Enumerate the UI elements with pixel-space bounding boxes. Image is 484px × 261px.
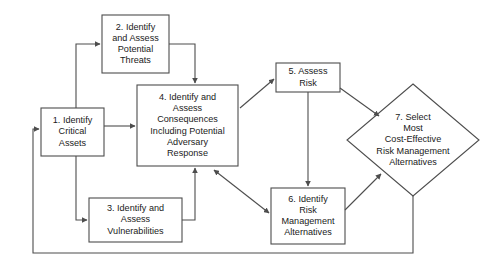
node-label-assess-risk: 5. Assess Risk — [276, 63, 340, 92]
node-label-identify-assess-vulnerabilities: 3. Identify and Assess Vulnerabilities — [89, 198, 182, 242]
node-label-identify-risk-management-alternatives: 6. Identify Risk Management Alternatives — [271, 188, 345, 244]
edge-3-to-4 — [182, 168, 195, 220]
edge-4-to-6 — [214, 170, 269, 213]
node-label-identify-critical-assets: 1. Identify Critical Assets — [41, 108, 104, 156]
node-label-select-most-cost-effective-alternatives: 7. Select Most Cost-Effective Risk Manag… — [349, 90, 477, 190]
risk-management-flowchart: 1. Identify Critical Assets 2. Identify … — [0, 0, 484, 261]
edge-1-to-3 — [76, 156, 87, 220]
edge-2-to-4 — [169, 44, 195, 83]
node-label-identify-assess-potential-threats: 2. Identify and Assess Potential Threats — [102, 15, 169, 73]
edge-4-to-5 — [240, 79, 274, 108]
node-label-identify-assess-consequences: 4. Identify and Assess Consequences Incl… — [137, 85, 238, 166]
edge-1-to-2 — [76, 44, 100, 108]
